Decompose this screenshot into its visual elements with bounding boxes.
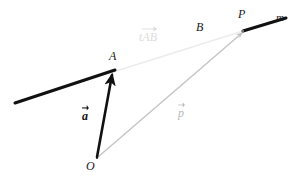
line-m-left-segment — [15, 70, 115, 103]
vector-a-glyph: a — [82, 110, 88, 122]
point-label-P: P — [238, 8, 245, 20]
vector-label-a: a — [82, 110, 88, 122]
point-marker-P — [242, 30, 244, 32]
guide-line-a-to-p — [113, 31, 243, 72]
vector-a-shaft — [97, 75, 112, 157]
segment-vector-ab-glyph: AB — [142, 31, 157, 43]
vector-label-p: p — [178, 107, 184, 119]
point-label-O: O — [86, 160, 95, 172]
point-label-A: A — [109, 50, 116, 62]
point-marker-O — [96, 157, 98, 159]
vector-a-letter: a — [82, 109, 88, 123]
segment-label-t-ab: t AB — [139, 31, 157, 43]
segment-vector-ab-letters: AB — [142, 30, 157, 44]
point-label-B: B — [196, 21, 203, 33]
vector-p-shaft — [98, 33, 242, 157]
vector-diagram: A B P O m a p — [0, 0, 297, 176]
line-label-m: m — [276, 12, 284, 23]
diagram-canvas — [0, 0, 297, 176]
vector-p-letter: p — [178, 106, 184, 120]
vector-p-glyph: p — [178, 107, 184, 119]
